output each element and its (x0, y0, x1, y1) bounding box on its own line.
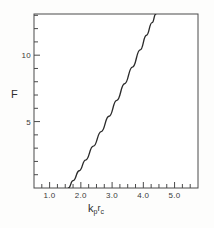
y-tick-label: 10 (18, 51, 31, 60)
y-axis-title: F (11, 88, 18, 100)
figure-container: 1.02.03.04.05.0 510 F kprc (0, 0, 214, 228)
x-tick-label: 2.0 (75, 191, 87, 200)
x-axis-title-sub-c: c (100, 208, 104, 215)
x-tick-label: 4.0 (137, 191, 149, 200)
x-tick-label: 1.0 (44, 191, 56, 200)
y-tick-label: 5 (18, 117, 31, 126)
x-axis-title: kprc (88, 202, 104, 215)
x-tick-label: 3.0 (106, 191, 118, 200)
x-tick-label: 5.0 (169, 191, 181, 200)
